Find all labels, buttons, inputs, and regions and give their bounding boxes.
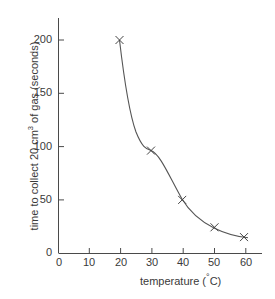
y-axis-title-wrapper: time to collect 20 cm3 of gas (seconds) xyxy=(24,36,40,236)
y-axis-title: time to collect 20 cm3 of gas (seconds) xyxy=(28,42,40,231)
x-axis-title-close: ) xyxy=(218,275,222,287)
y-tick-label-0: 0 xyxy=(16,247,52,258)
x-axis-title-unit: C xyxy=(210,275,218,287)
data-point-marker xyxy=(147,147,155,155)
y-axis-title-superscript: 3 xyxy=(26,126,35,130)
x-tick-label-40: 40 xyxy=(172,257,194,268)
x-tick-label-0: 0 xyxy=(48,257,70,268)
x-tick-label-60: 60 xyxy=(235,257,257,268)
y-axis-title-part1: time to collect 20 cm xyxy=(28,130,40,230)
x-tick-label-30: 30 xyxy=(141,257,163,268)
chart-container: 200 150 100 50 0 0 10 20 30 40 50 60 tem… xyxy=(0,0,275,299)
y-axis-ticks xyxy=(59,40,65,200)
y-axis-title-part2: of gas (seconds) xyxy=(28,42,40,126)
x-axis-ticks xyxy=(89,248,246,254)
data-point-markers xyxy=(116,36,249,241)
x-tick-label-20: 20 xyxy=(110,257,132,268)
data-point-marker xyxy=(178,196,186,204)
x-axis-title-text: temperature ( xyxy=(140,275,206,287)
x-tick-label-10: 10 xyxy=(78,257,100,268)
x-axis-title: temperature (°C) xyxy=(140,272,221,287)
x-tick-label-50: 50 xyxy=(203,257,225,268)
data-series-line xyxy=(120,40,249,238)
